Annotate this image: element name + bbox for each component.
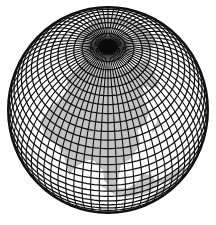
globe-figure [0, 0, 216, 225]
north-pole-cap [98, 40, 118, 54]
globe-graphic [0, 0, 216, 225]
